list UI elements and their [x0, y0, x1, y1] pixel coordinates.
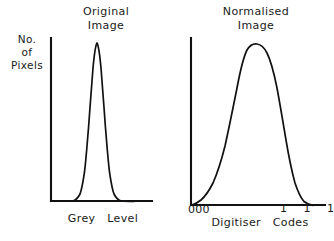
y-axis-label-original: No. of Pixels [6, 33, 48, 72]
x-tick-max-normalised: 1 1 1 [280, 202, 334, 215]
panel-original-image: Original Image No. of Pixels Grey Level [0, 0, 167, 241]
curve-original-histogram [73, 43, 134, 201]
curve-normalised-histogram [192, 44, 313, 205]
x-tick-min-normalised: 000 [188, 203, 210, 216]
x-axis-label-grey-level: Grey Level [47, 212, 159, 225]
x-axis-label-digitiser-codes: Digitiser Codes [200, 216, 320, 229]
histogram-figure: Original Image No. of Pixels Grey Level … [0, 0, 334, 241]
panel-normalised-image: Normalised Image 000 1 1 1 Digitiser Cod… [167, 0, 334, 241]
